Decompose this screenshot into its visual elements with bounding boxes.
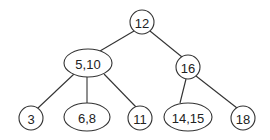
edge-n5_10-n11 xyxy=(104,74,136,107)
edge-n16-n14_15 xyxy=(180,79,186,103)
tree-node-n12: 12 xyxy=(130,10,154,34)
node-label: 5,10 xyxy=(75,57,100,72)
node-label: 3 xyxy=(27,112,34,127)
tree-nodes: 125,101636,81114,1518 xyxy=(19,10,255,131)
tree-node-n6_8: 6,8 xyxy=(64,103,110,131)
tree-node-n3: 3 xyxy=(19,106,43,130)
node-label: 12 xyxy=(135,16,149,31)
tree-node-n16: 16 xyxy=(176,55,200,79)
node-label: 14,15 xyxy=(172,111,205,126)
tree-diagram: 125,101636,81114,1518 xyxy=(0,0,270,140)
edge-n12-n5_10 xyxy=(100,31,134,51)
node-label: 6,8 xyxy=(78,111,96,126)
edge-n16-n18 xyxy=(196,76,237,108)
edge-n12-n16 xyxy=(150,31,182,57)
node-label: 18 xyxy=(236,112,250,127)
tree-node-n11: 11 xyxy=(128,106,152,130)
node-label: 11 xyxy=(133,112,147,127)
edge-n5_10-n3 xyxy=(38,74,74,108)
tree-node-n5_10: 5,10 xyxy=(64,49,112,77)
tree-node-n18: 18 xyxy=(231,106,255,130)
tree-node-n14_15: 14,15 xyxy=(164,103,212,131)
node-label: 16 xyxy=(181,61,195,76)
